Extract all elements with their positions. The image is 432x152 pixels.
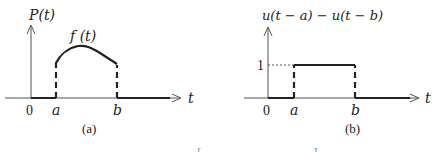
tick-0: 0 [26,103,33,118]
left-bracket: [ [197,146,202,152]
right-bracket: ] [313,146,318,152]
caption-a: (a) [82,121,96,136]
tick-b: b [113,102,122,118]
y-axis-label: u(t − a) − u(t − b) [262,8,383,23]
curve-f [56,46,117,65]
figure: P(t) f (t) t 0 a b (a) u(t − a) − u(t − … [0,0,432,152]
panel-b: u(t − a) − u(t − b) 1 t 0 a b (b) [244,8,431,136]
tick-b: b [351,102,360,118]
caption-b: (b) [345,121,360,136]
curve-label: f (t) [69,28,96,44]
y-axis-label: P(t) [28,7,55,23]
panel-a: P(t) f (t) t 0 a b (a) [5,7,194,136]
x-axis-label: t [188,90,194,106]
tick-a: a [52,102,60,118]
tick-a: a [290,102,298,118]
tick-0: 0 [263,103,270,118]
x-axis-label: t [425,90,431,106]
level-label: 1 [257,58,264,73]
